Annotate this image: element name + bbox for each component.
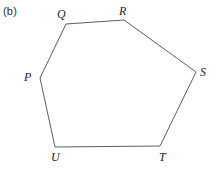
vertex-label-t: T — [159, 151, 166, 163]
hexagon-outline — [40, 20, 196, 147]
vertex-label-p: P — [24, 71, 31, 83]
figure-container: (b) P Q R S T U — [0, 0, 216, 171]
vertex-label-s: S — [200, 66, 206, 78]
vertex-label-u: U — [51, 151, 60, 163]
hexagon-diagram — [0, 0, 216, 171]
vertex-label-r: R — [119, 5, 126, 17]
vertex-label-q: Q — [57, 8, 66, 20]
